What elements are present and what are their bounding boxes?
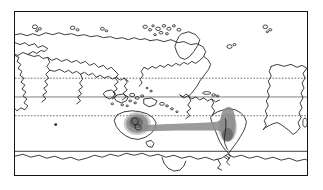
pacific-islands — [146, 87, 178, 112]
landmass-north-america — [139, 40, 219, 119]
species-range-overlay — [124, 107, 237, 149]
landmass-antarctica — [15, 153, 307, 171]
map-frame — [14, 11, 308, 176]
arctic-islands — [32, 25, 272, 49]
indian-ocean-point-marker — [54, 123, 57, 126]
landmass-greenland — [175, 32, 200, 60]
figure-panel: equirectangular, Pacific-centred world-m… — [0, 0, 323, 190]
landmass-africa — [263, 64, 307, 134]
landmass-eurasia-west — [15, 33, 150, 111]
world-map-svg — [15, 12, 307, 175]
caribbean-islands — [203, 92, 219, 97]
gridline-group — [15, 78, 307, 151]
map-canvas — [15, 12, 307, 175]
